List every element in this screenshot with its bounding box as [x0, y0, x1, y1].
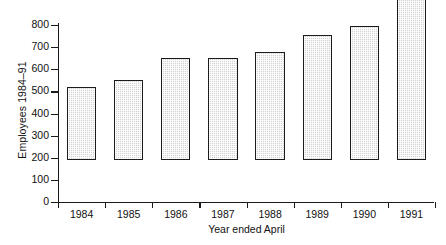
y-tick-mark: [51, 69, 58, 70]
x-tick-label: 1991: [388, 208, 435, 220]
y-tick-mark: [51, 158, 58, 159]
x-tick-mark: [247, 202, 248, 208]
bar: [397, 0, 426, 160]
y-tick-mark: [51, 202, 58, 203]
x-tick-mark: [152, 202, 153, 208]
y-tick-label: 100: [3, 174, 49, 184]
y-tick-mark: [51, 47, 58, 48]
y-tick-mark: [51, 136, 58, 137]
bar-chart: Employees 1984–91 8007006005004003002001…: [0, 0, 446, 245]
bar: [67, 87, 96, 160]
y-tick-mark: [51, 180, 58, 181]
y-tick-label: 800: [3, 19, 49, 29]
bar: [208, 58, 237, 160]
x-tick-label: 1986: [152, 208, 199, 220]
bar: [114, 80, 143, 160]
bar: [161, 58, 190, 160]
y-tick-mark: [51, 25, 58, 26]
x-tick-label: 1989: [294, 208, 341, 220]
y-tick-label: 700: [3, 41, 49, 51]
x-tick-mark: [388, 202, 389, 208]
x-tick-mark: [58, 202, 59, 208]
bar: [255, 52, 284, 160]
y-tick-label: 400: [3, 108, 49, 118]
bar: [350, 26, 379, 160]
x-tick-label: 1984: [58, 208, 105, 220]
x-tick-mark: [341, 202, 342, 208]
x-tick-mark: [435, 202, 436, 208]
x-tick-mark: [199, 202, 200, 208]
x-tick-label: 1990: [341, 208, 388, 220]
x-tick-mark: [294, 202, 295, 208]
x-tick-label: 1988: [247, 208, 294, 220]
y-tick-mark: [51, 91, 58, 92]
x-tick-mark: [105, 202, 106, 208]
x-axis-title: Year ended April: [58, 223, 435, 235]
y-tick-label: 300: [3, 130, 49, 140]
bar: [303, 35, 332, 160]
y-axis-labels: 8007006005004003002001000: [0, 0, 49, 245]
y-tick-mark: [51, 114, 58, 115]
y-tick-label: 0: [3, 196, 49, 206]
x-tick-label: 1987: [199, 208, 246, 220]
y-tick-label: 600: [3, 63, 49, 73]
x-tick-label: 1985: [105, 208, 152, 220]
y-tick-label: 200: [3, 152, 49, 162]
bar-series: [58, 0, 435, 203]
y-tick-label: 500: [3, 85, 49, 95]
